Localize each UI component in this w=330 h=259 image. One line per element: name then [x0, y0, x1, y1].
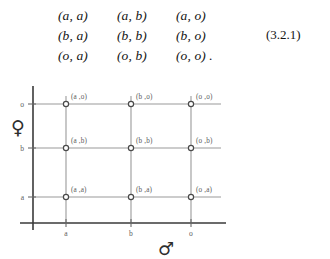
y-tick-label-a: a	[21, 193, 25, 202]
lattice-svg: o b a a b o (a ,o) (b ,o) (o ,o) (a ,b) …	[0, 78, 330, 259]
equation-cell: (a, o)	[176, 6, 231, 25]
lattice-node	[63, 145, 68, 150]
lattice-node-label: (a ,b)	[71, 137, 88, 145]
lattice-node	[63, 101, 68, 106]
equation-row: (a, a) (a, b) (a, o)	[58, 5, 231, 24]
equation-cell: (b, b)	[117, 26, 172, 45]
x-tick-label-a: a	[64, 229, 68, 238]
lattice-node	[128, 194, 133, 199]
equation-cell: (b, o)	[176, 26, 231, 45]
lattice-node	[188, 194, 193, 199]
lattice-node-label: (o ,b)	[196, 137, 213, 145]
x-tick-label-b: b	[129, 229, 133, 238]
equation-cell: (a, a)	[58, 6, 113, 25]
lattice-node-label: (o ,o)	[196, 93, 213, 101]
lattice-node	[128, 145, 133, 150]
y-axis-ticks	[28, 104, 36, 197]
figure-page: (a, a) (a, b) (a, o) (b, a) (b, b) (b, o…	[0, 0, 330, 259]
lattice-diagram: o b a a b o (a ,o) (b ,o) (o ,o) (a ,b) …	[0, 78, 330, 259]
equation-row: (o, a) (o, b) (o, o) .	[58, 45, 231, 64]
lattice-node-label: (b ,o)	[136, 93, 153, 101]
lattice-node	[188, 101, 193, 106]
equation-number: (3.2.1)	[266, 25, 301, 44]
lattice-node-label: (b ,b)	[136, 137, 153, 145]
equation-cell: (b, a)	[58, 26, 113, 45]
equation-cell: (a, b)	[117, 6, 172, 25]
equation-cell: (o, b)	[117, 46, 172, 65]
x-tick-label-o: o	[189, 229, 193, 238]
y-tick-label-o: o	[20, 100, 24, 109]
lattice-node	[188, 145, 193, 150]
lattice-node	[128, 101, 133, 106]
lattice-node-label: (b ,a)	[136, 186, 153, 194]
equation-cell: (o, a)	[58, 46, 113, 65]
lattice-node-label: (a ,a)	[71, 186, 87, 194]
lattice-node	[63, 194, 68, 199]
female-symbol-icon: ♀	[11, 116, 25, 138]
grid-lines-vertical	[66, 96, 191, 223]
equation-block: (a, a) (a, b) (a, o) (b, a) (b, b) (b, o…	[0, 0, 330, 75]
lattice-node-label: (a ,o)	[71, 93, 88, 101]
equation-row: (b, a) (b, b) (b, o)	[58, 25, 231, 44]
male-symbol-icon: ♂	[158, 238, 174, 259]
lattice-node-label: (o ,a)	[196, 186, 213, 194]
y-tick-label-b: b	[20, 144, 24, 153]
equation-cell: (o, o) .	[176, 46, 231, 65]
